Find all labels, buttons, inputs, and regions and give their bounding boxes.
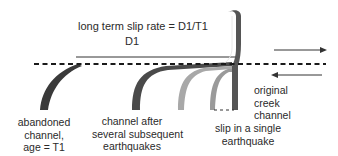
original-creek-channel bbox=[228, 10, 241, 110]
arrow-right-icon bbox=[274, 47, 327, 53]
arrow-left-icon bbox=[271, 72, 322, 78]
single-slip-label: slip in a single earthquake bbox=[198, 122, 298, 147]
single-slip-channel bbox=[210, 69, 232, 110]
channel-after-label: channel after several subsequent earthqu… bbox=[92, 115, 172, 153]
original-channel-label: original creek channel bbox=[254, 84, 291, 122]
d1-label: D1 bbox=[125, 35, 139, 48]
abandoned-channel-label: abandoned channel, age = T1 bbox=[14, 116, 74, 154]
abandoned-channel bbox=[40, 64, 82, 110]
fault-slip-diagram: long term slip rate = D1/T1 D1 abandoned… bbox=[0, 0, 338, 156]
slip-rate-formula: long term slip rate = D1/T1 bbox=[78, 20, 208, 33]
